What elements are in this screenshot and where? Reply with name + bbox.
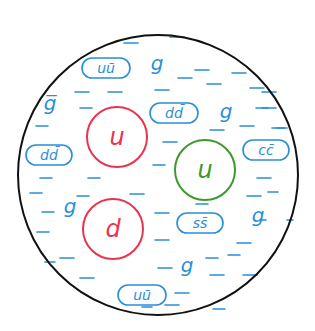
proton-boundary	[18, 35, 298, 315]
quark-pair: uū	[118, 285, 166, 305]
gluon-label: g̅	[44, 91, 58, 115]
valence-quark-u: u	[175, 140, 235, 200]
valence-quark-label: d	[105, 215, 121, 243]
valence-quark-label: u	[109, 123, 124, 151]
gluon-label: g	[252, 203, 265, 227]
quark-pair-label: ss̄	[193, 215, 208, 231]
quark-pair-label: dd̄	[165, 104, 185, 121]
quark-pair: ss̄	[177, 213, 223, 233]
quark-pair-label: uū	[133, 287, 151, 303]
quark-pair-label: cc̄	[258, 142, 274, 158]
gluon-label: g	[220, 99, 233, 123]
valence-quark-u: u	[87, 107, 147, 167]
quark-pair: dd̄	[26, 145, 72, 165]
quark-pair: dd̄	[150, 103, 198, 123]
gluon-label: g	[151, 51, 164, 75]
quark-pair: uū	[82, 58, 130, 78]
gluon-label: g	[181, 253, 194, 277]
quark-pair-label: dd̄	[40, 146, 60, 163]
quark-pair: cc̄	[243, 140, 289, 160]
gluon-label: g	[64, 194, 77, 218]
proton-diagram: uūdd̄dd̄cc̄ss̄uū gg̅gggg uud	[0, 0, 315, 331]
valence-quark-label: u	[197, 156, 212, 184]
valence-quark-d: d	[83, 199, 143, 259]
quark-pair-label: uū	[97, 60, 115, 76]
sea-dashes	[30, 37, 293, 309]
